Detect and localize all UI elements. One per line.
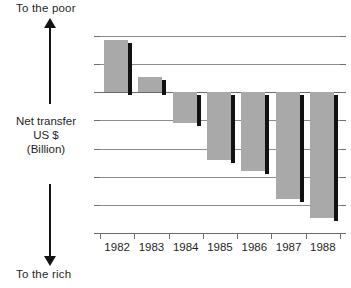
y-axis-title-line-2: US $ bbox=[0, 128, 92, 142]
bar-shadow-1983 bbox=[162, 80, 166, 95]
x-tick-mark bbox=[169, 233, 170, 239]
y-axis-title: Net transfer US $ (Billion) bbox=[0, 114, 92, 156]
y-tick-mark bbox=[94, 92, 100, 93]
gridline-neg40 bbox=[100, 205, 340, 206]
y-tick-mark bbox=[94, 64, 100, 65]
x-tick-mark bbox=[306, 233, 307, 239]
x-tick-mark bbox=[134, 233, 135, 239]
y-axis-title-line-3: (Billion) bbox=[0, 142, 92, 156]
up-arrow-icon bbox=[44, 18, 56, 104]
bar-shadow-1988 bbox=[334, 95, 338, 220]
x-tick-label-1985: 1985 bbox=[203, 241, 237, 253]
bar-1987 bbox=[276, 92, 300, 199]
x-tick-label-1983: 1983 bbox=[134, 241, 168, 253]
x-axis-line bbox=[100, 233, 340, 234]
y-tick-mark-right bbox=[340, 64, 346, 65]
x-tick-mark bbox=[271, 233, 272, 239]
bar-shadow-1987 bbox=[300, 95, 304, 202]
x-tick-label-1988: 1988 bbox=[306, 241, 340, 253]
net-transfer-bar-chart: To the poor Net transfer US $ (Billion) … bbox=[0, 0, 351, 288]
gridline-10 bbox=[100, 64, 340, 65]
bar-shadow-1984 bbox=[197, 95, 201, 126]
x-tick-label-1982: 1982 bbox=[100, 241, 134, 253]
bar-1985 bbox=[207, 92, 231, 160]
x-tick-mark bbox=[203, 233, 204, 239]
x-tick-mark bbox=[237, 233, 238, 239]
bar-1982 bbox=[104, 40, 128, 92]
y-tick-mark-right bbox=[340, 120, 346, 121]
bar-1986 bbox=[241, 92, 265, 171]
bar-shadow-1982 bbox=[128, 43, 132, 95]
x-tick-mark bbox=[100, 233, 101, 239]
y-tick-mark bbox=[94, 205, 100, 206]
y-axis-title-line-1: Net transfer bbox=[0, 114, 92, 128]
to-the-poor-label: To the poor bbox=[16, 2, 76, 14]
plot-area: 20100–10–20–30–40–50 1982198319841985198… bbox=[100, 36, 340, 233]
bar-shadow-1985 bbox=[231, 95, 235, 163]
x-tick-mark bbox=[340, 233, 341, 239]
bar-shadow-1986 bbox=[265, 95, 269, 174]
y-tick-mark bbox=[94, 177, 100, 178]
down-arrow-icon bbox=[44, 184, 56, 266]
x-tick-label-1986: 1986 bbox=[237, 241, 271, 253]
bar-1983 bbox=[138, 77, 162, 92]
bar-1984 bbox=[173, 92, 197, 123]
y-tick-mark-right bbox=[340, 177, 346, 178]
y-tick-mark bbox=[94, 36, 100, 37]
x-tick-label-1984: 1984 bbox=[169, 241, 203, 253]
y-tick-mark bbox=[94, 149, 100, 150]
y-tick-mark-right bbox=[340, 205, 346, 206]
x-tick-label-1987: 1987 bbox=[271, 241, 305, 253]
bar-1988 bbox=[310, 92, 334, 217]
to-the-rich-label: To the rich bbox=[16, 268, 71, 280]
y-tick-mark-right bbox=[340, 36, 346, 37]
y-tick-mark bbox=[94, 120, 100, 121]
gridline-20 bbox=[100, 36, 340, 37]
y-tick-mark-right bbox=[340, 92, 346, 93]
gridline-neg30 bbox=[100, 177, 340, 178]
y-tick-mark-right bbox=[340, 149, 346, 150]
